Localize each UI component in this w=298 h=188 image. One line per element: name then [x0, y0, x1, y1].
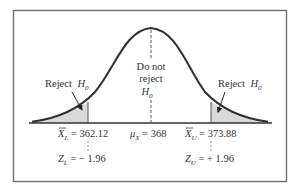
do-not-reject-line1: Do not — [137, 61, 166, 72]
do-not-reject-line2: reject — [139, 73, 162, 84]
hypothesis-test-diagram: Reject H0 Do not reject H0 Reject H0 XL … — [0, 0, 298, 188]
